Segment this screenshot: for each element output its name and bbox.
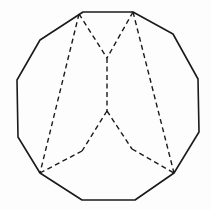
fold-line-0: [79, 14, 107, 58]
dashed-fold-lines: [40, 12, 174, 173]
dodecagon-diagram: [0, 0, 211, 210]
fold-line-7: [40, 14, 79, 173]
fold-line-6: [132, 149, 174, 173]
fold-line-4: [40, 151, 82, 173]
fold-line-1: [107, 12, 133, 58]
fold-line-8: [133, 12, 174, 173]
diagram-canvas: [0, 0, 211, 210]
fold-line-5: [107, 111, 132, 149]
fold-line-3: [82, 111, 107, 151]
